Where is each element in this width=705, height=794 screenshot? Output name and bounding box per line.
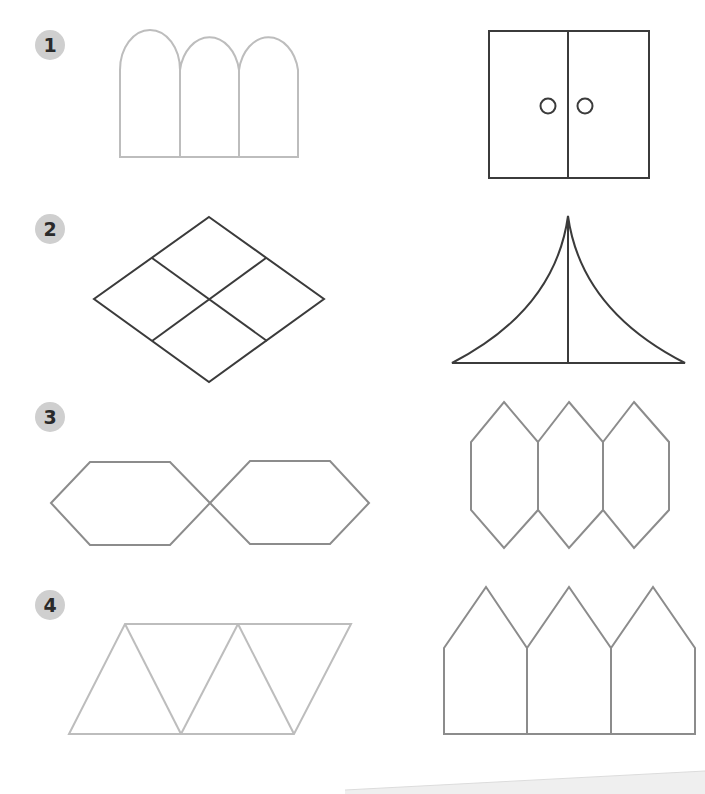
triangle-parallelogram-shape xyxy=(69,624,351,734)
worksheet-drawing xyxy=(0,0,705,794)
three-tall-hexagons-shape xyxy=(471,402,669,548)
three-houses-shape xyxy=(444,587,695,734)
page-edge-shadow xyxy=(345,771,705,794)
two-hexagons-shape xyxy=(51,461,369,545)
divided-rhombus-shape xyxy=(94,217,324,382)
door-knob-left xyxy=(541,99,556,114)
door-knob-right xyxy=(578,99,593,114)
three-arches-shape xyxy=(120,30,298,157)
curved-tent-shape xyxy=(452,216,685,363)
double-door-shape xyxy=(489,31,649,178)
